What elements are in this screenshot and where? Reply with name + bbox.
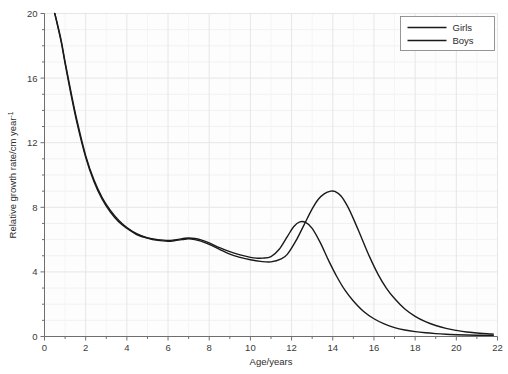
x-tick-label: 14 — [327, 342, 338, 353]
legend-label-boys: Boys — [453, 35, 474, 46]
y-tick-label: 16 — [27, 73, 38, 84]
y-tick-label: 4 — [32, 266, 37, 277]
x-tick-label: 6 — [165, 342, 170, 353]
x-axis-title: Age/years — [250, 356, 293, 367]
y-tick-label: 8 — [32, 202, 37, 213]
chart-legend: GirlsBoys — [401, 17, 495, 51]
chart-canvas: 048121620 0246810121416182022 Age/years … — [0, 0, 508, 374]
x-tick-label: 12 — [286, 342, 297, 353]
legend-box — [401, 17, 495, 51]
legend-label-girls: Girls — [453, 22, 473, 33]
x-tick-label: 8 — [207, 342, 212, 353]
x-tick-label: 0 — [42, 342, 47, 353]
y-tick-label: 20 — [27, 8, 38, 19]
y-tick-label: 12 — [27, 137, 38, 148]
x-tick-label: 22 — [492, 342, 503, 353]
y-axis-title-text: Relative growth rate/cm year — [7, 117, 18, 238]
x-tick-label: 4 — [124, 342, 129, 353]
x-tick-label: 2 — [83, 342, 88, 353]
y-tick-label: 0 — [32, 331, 37, 342]
y-axis-title-superscript: -1 — [7, 111, 14, 117]
x-tick-label: 16 — [369, 342, 380, 353]
x-tick-label: 10 — [245, 342, 256, 353]
x-tick-label: 20 — [451, 342, 462, 353]
growth-rate-chart-figure: 048121620 0246810121416182022 Age/years … — [0, 0, 508, 374]
x-tick-label: 18 — [410, 342, 421, 353]
y-axis-title: Relative growth rate/cm year-1 — [7, 111, 18, 238]
